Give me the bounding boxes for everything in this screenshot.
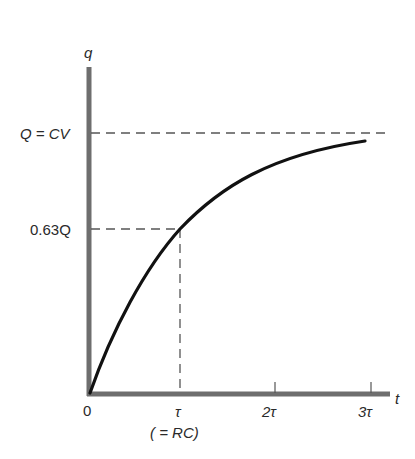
q63-label: 0.63Q — [30, 221, 71, 238]
charging-curve-chart: q t Q = CV 0.63Q 0 τ 2τ 3τ ( = RC) — [0, 0, 415, 459]
y-axis-label: q — [84, 44, 93, 61]
x-axis-label: t — [395, 390, 400, 407]
tau-label: τ — [175, 403, 182, 420]
three-tau-label: 3τ — [358, 403, 373, 420]
q-cv-label: Q = CV — [20, 125, 72, 142]
origin-label: 0 — [83, 402, 91, 419]
rc-note-label: ( = RC) — [150, 424, 199, 441]
charging-curve — [90, 141, 365, 393]
two-tau-label: 2τ — [261, 403, 277, 420]
